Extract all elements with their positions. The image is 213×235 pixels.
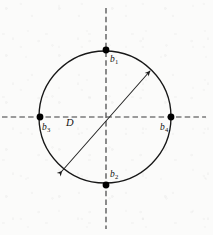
- point-label-b1: b1: [110, 55, 118, 65]
- point-label-b2: b2: [110, 170, 118, 180]
- circle-diagram-figure: b1 b2 b3 b4 D: [0, 0, 213, 235]
- point-marker-b2: [103, 182, 110, 189]
- point-label-b1-subscript: 1: [115, 58, 118, 65]
- point-label-b4: b4: [160, 123, 168, 133]
- point-label-b4-subscript: 4: [165, 126, 168, 133]
- point-marker-b3: [37, 114, 44, 121]
- diameter-label: D: [66, 118, 74, 129]
- point-label-b2-subscript: 2: [115, 173, 118, 180]
- point-label-b3-subscript: 3: [47, 126, 50, 133]
- diagram-canvas: [0, 0, 213, 235]
- point-marker-b1: [103, 47, 110, 54]
- point-label-b3: b3: [42, 123, 50, 133]
- point-marker-b4: [168, 114, 175, 121]
